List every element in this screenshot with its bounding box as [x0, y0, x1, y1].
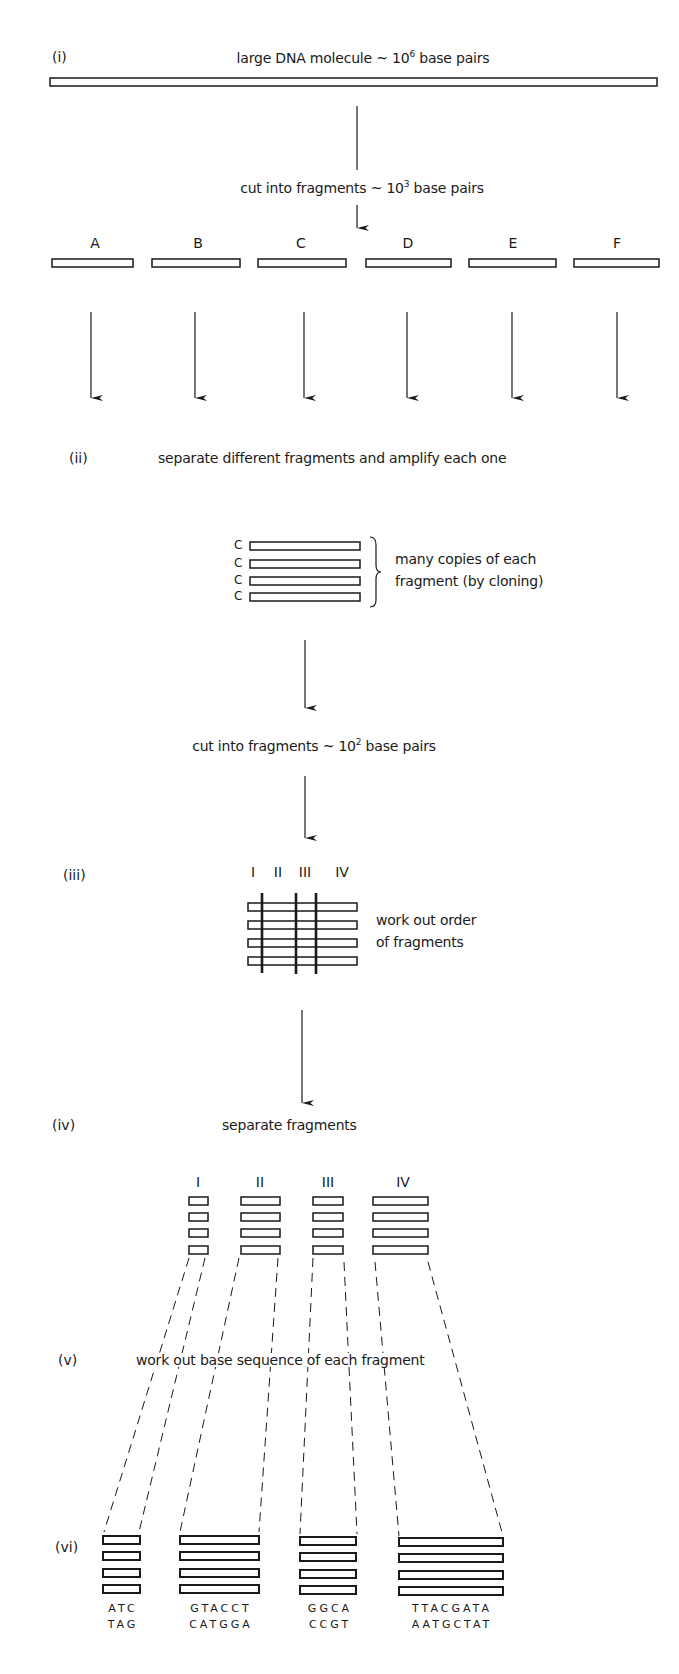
clone-label: C [234, 590, 242, 602]
step-label-i: (i) [52, 50, 67, 64]
fragment-label: E [509, 236, 518, 250]
sequence-bottom-I: TAG [108, 1619, 139, 1630]
clone-note-line1: many copies of each [395, 552, 536, 566]
clone-label: C [234, 557, 242, 569]
subfragment-label: III [322, 1175, 334, 1189]
step-label-ii: (ii) [69, 451, 88, 465]
projection-lines [104, 1258, 503, 1536]
brace-icon [370, 537, 381, 607]
cut-caption-2: cut into fragments ~ 102 base pairs [192, 738, 436, 753]
step-label-v: (v) [58, 1353, 77, 1367]
subfragment-label: IV [335, 865, 349, 879]
fragment-label: A [90, 236, 100, 250]
fragment-label: C [296, 236, 306, 250]
step-label-iv: (iv) [52, 1118, 75, 1132]
sequence-top-IV: TTACGATA [412, 1603, 492, 1614]
subfragment-label: II [256, 1175, 264, 1189]
clone-note-line2: fragment (by cloning) [395, 574, 543, 588]
subfragment-label: I [196, 1175, 200, 1189]
step-label-vi: (vi) [55, 1540, 78, 1554]
sequence-top-III: GGCA [308, 1603, 352, 1614]
order-caption-line1: work out order [376, 913, 476, 927]
sequence-bottom-IV: AATGCTAT [412, 1619, 493, 1630]
subfragment-label: III [299, 865, 311, 879]
separate-fragments-caption: separate fragments [222, 1118, 357, 1132]
clone-label: C [234, 539, 242, 551]
ordering-grid [248, 893, 357, 974]
dna-molecule-caption: large DNA molecule ~ 106 base pairs [237, 50, 490, 65]
order-caption-line2: of fragments [376, 935, 464, 949]
fragment-label: B [193, 236, 203, 250]
fragment-arrows [91, 312, 617, 398]
fragment-bars [52, 259, 659, 267]
sequence-bottom-III: CCGT [309, 1619, 351, 1630]
fragment-label: F [613, 236, 621, 250]
diagram-graphics [0, 0, 679, 1674]
sequence-top-I: ATC [108, 1603, 137, 1614]
sequence-bottom-II: CATGGA [189, 1619, 253, 1630]
cut-caption-1: cut into fragments ~ 103 base pairs [238, 180, 486, 195]
sequence-top-II: GTACCT [190, 1603, 251, 1614]
subfragment-label: IV [396, 1175, 410, 1189]
base-sequence-caption: work out base sequence of each fragment [134, 1353, 427, 1367]
subfragment-label: I [251, 865, 255, 879]
clone-bars [250, 542, 360, 601]
large-dna-bar [50, 78, 657, 86]
clone-label: C [234, 574, 242, 586]
sequenced-bars [103, 1536, 503, 1595]
subfragment-label: II [274, 865, 282, 879]
separate-amplify-caption: separate different fragments and amplify… [158, 451, 506, 465]
step-label-iii: (iii) [63, 868, 86, 882]
fragment-label: D [403, 236, 414, 250]
subfragment-bars [189, 1197, 428, 1254]
